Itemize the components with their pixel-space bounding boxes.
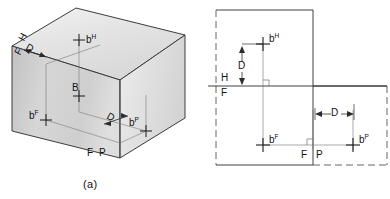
label-p-plane-bottom: P — [99, 148, 106, 158]
caption-a: (a) — [83, 178, 98, 190]
pictorial-drawing — [0, 0, 195, 199]
right-angle-mark-fp — [307, 139, 313, 145]
orthographic-drawing — [195, 0, 390, 199]
label-point-bh-sup: H — [92, 33, 97, 40]
ortho-label-f-left: F — [221, 88, 227, 98]
label-point-bf-sup: F — [35, 109, 39, 116]
label-b-vertex: B — [72, 83, 79, 93]
pictorial-panel: H F D bH B bF D bP F P (a) — [0, 0, 195, 199]
figure-root: H F D bH B bF D bP F P (a) — [0, 0, 390, 199]
d-vertical-arrow-down — [239, 78, 245, 85]
ortho-label-depth-horizontal: D — [331, 108, 338, 118]
d-vertical-arrow-up — [239, 46, 245, 53]
ortho-label-bh: bH — [269, 33, 279, 44]
ortho-label-f-bottom: F — [301, 150, 307, 160]
label-point-bp: bP — [129, 117, 139, 128]
ortho-label-bf: bF — [269, 134, 279, 145]
ortho-label-p-bottom: P — [316, 150, 323, 160]
ortho-label-depth-vertical: D — [238, 61, 245, 71]
right-angle-mark-hf — [263, 80, 269, 86]
label-point-bp-sup: P — [135, 116, 139, 123]
label-point-bh: bH — [86, 34, 96, 45]
label-point-bf: bF — [29, 110, 39, 121]
ortho-label-bf-sup: F — [275, 133, 279, 140]
ortho-label-bp: bP — [359, 134, 369, 145]
ortho-label-h: H — [221, 73, 228, 83]
d-horizontal-arrow-left — [315, 111, 322, 117]
ortho-label-bh-sup: H — [275, 32, 280, 39]
label-f-plane-bottom: F — [87, 148, 93, 158]
orthographic-panel: bH D H F bF D F P bP (b) — [195, 0, 390, 199]
ortho-label-bp-sup: P — [365, 133, 369, 140]
